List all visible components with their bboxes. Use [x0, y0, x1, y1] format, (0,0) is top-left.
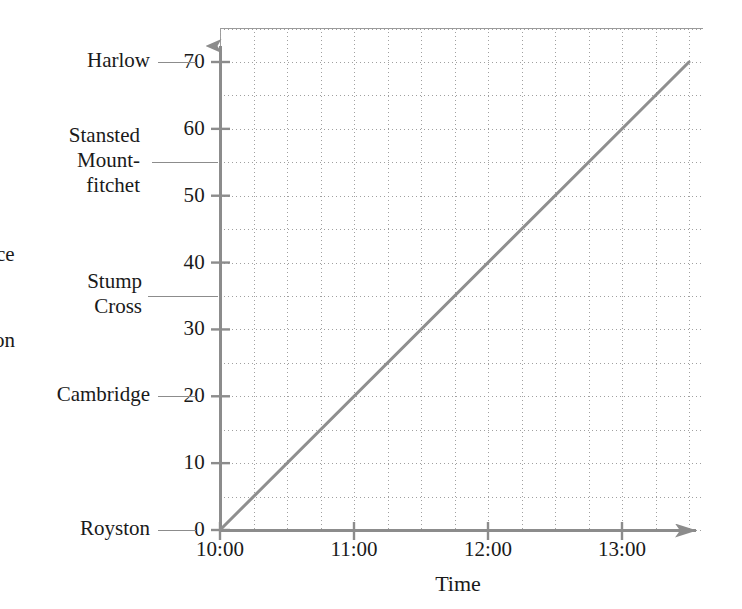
station-leader-line [152, 162, 218, 163]
x-tick-label: 11:00 [304, 539, 404, 560]
y-tick-label: 50 [161, 185, 205, 206]
x-tick-label: 10:00 [170, 539, 270, 560]
y-tick-label: 30 [161, 318, 205, 339]
distance-time-chart: 010203040506070 10:0011:0012:0013:00 Har… [0, 0, 742, 609]
series-line [220, 62, 689, 530]
x-tick-label: 12:00 [438, 539, 538, 560]
y-axis-title-fragment-upper: ce [0, 244, 15, 265]
y-axis-title-fragment-lower: on [0, 330, 15, 351]
x-axis-title: Time [358, 572, 558, 596]
data-series [220, 62, 689, 530]
station-label: Cambridge [0, 382, 150, 407]
station-leader-line [148, 296, 218, 297]
y-tick-label: 40 [161, 252, 205, 273]
y-tick-label: 60 [161, 118, 205, 139]
station-label: Stansted Mount- fitchet [0, 123, 140, 198]
station-leader-line [158, 62, 196, 63]
station-leader-line [158, 530, 196, 531]
station-label: Harlow [0, 48, 150, 73]
station-label: Stump Cross [0, 269, 142, 319]
y-tick-label: 10 [161, 452, 205, 473]
x-tick-label: 13:00 [572, 539, 672, 560]
station-label: Royston [0, 516, 150, 541]
station-leader-line [158, 396, 196, 397]
